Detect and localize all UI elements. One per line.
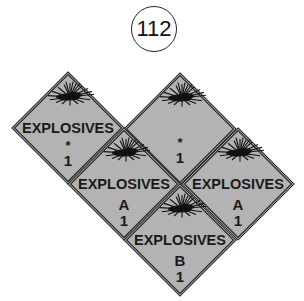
explosives-placards-diagram: EXPLOSIVES*1*1EXPLOSIVESA1EXPLOSIVESA1EX… [0,0,304,301]
division-letter: A [119,196,130,213]
hazard-class-number: 1 [120,212,128,229]
placard-word: EXPLOSIVES [134,232,226,248]
hazard-class-number: 1 [234,212,242,229]
division-letter: A [233,196,244,213]
division-letter: B [175,252,186,269]
hazard-class-number: 1 [176,268,184,285]
placard-word: EXPLOSIVES [192,176,284,192]
hazard-class-number: 1 [64,152,72,169]
hazard-class-number: 1 [176,149,184,166]
placard-word: EXPLOSIVES [78,176,170,192]
placard-word: EXPLOSIVES [22,120,114,136]
